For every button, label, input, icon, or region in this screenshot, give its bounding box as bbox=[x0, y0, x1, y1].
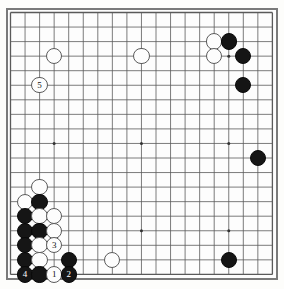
black-stone-lower-right[interactable] bbox=[221, 252, 237, 268]
stone-move-number: 5 bbox=[32, 80, 46, 90]
star-point bbox=[227, 142, 230, 145]
stone-move-number: 2 bbox=[62, 269, 76, 279]
white-stone-marked-5[interactable]: 5 bbox=[31, 77, 47, 93]
stone-move-number: 3 bbox=[47, 240, 61, 250]
star-point bbox=[53, 142, 56, 145]
stone-move-number: 1 bbox=[47, 269, 61, 279]
black-stone-marked-2[interactable]: 2 bbox=[61, 266, 77, 282]
white-stone-top-center[interactable] bbox=[133, 48, 149, 64]
go-board-diagram: 53412 bbox=[0, 0, 284, 289]
black-stone-upper-right-a[interactable] bbox=[221, 33, 237, 49]
star-point bbox=[140, 142, 143, 145]
white-stone-wall-top[interactable] bbox=[31, 179, 47, 195]
black-stone-right-side[interactable] bbox=[250, 150, 266, 166]
stone-move-number: 4 bbox=[18, 269, 32, 279]
star-point bbox=[140, 229, 143, 232]
star-point bbox=[227, 229, 230, 232]
white-stone-marked-1[interactable]: 1 bbox=[46, 266, 62, 282]
star-point bbox=[227, 55, 230, 58]
